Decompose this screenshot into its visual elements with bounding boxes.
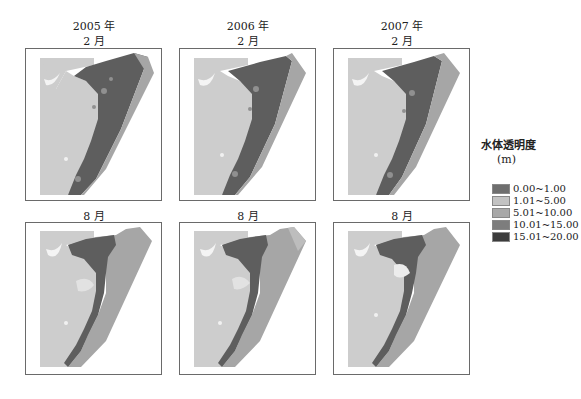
water-transparency-map xyxy=(180,223,317,376)
legend-label: 0.00~1.00 xyxy=(513,183,566,194)
legend-item: 0.00~1.00 xyxy=(492,183,566,194)
map-panel-2007-aug xyxy=(333,222,470,375)
month-label-2005-aug: 8 月 xyxy=(24,207,164,223)
legend-label: 15.01~20.00 xyxy=(513,231,579,242)
legend-swatch xyxy=(492,220,510,230)
map-panel-2006-aug xyxy=(179,222,316,375)
legend-swatch xyxy=(492,196,510,206)
legend-item: 5.01~10.00 xyxy=(492,207,572,218)
month-label-2007-feb: 2 月 xyxy=(332,32,472,48)
legend-item: 10.01~15.00 xyxy=(492,219,579,230)
water-transparency-map xyxy=(334,223,471,376)
legend-label: 5.01~10.00 xyxy=(513,207,572,218)
month-label-2006-aug: 8 月 xyxy=(178,207,318,223)
year-label-2007: 2007 年 xyxy=(332,17,472,33)
legend-swatch xyxy=(492,208,510,218)
water-transparency-map xyxy=(26,223,163,376)
map-panel-2007-feb xyxy=(333,48,470,201)
month-label-2007-aug: 8 月 xyxy=(332,207,472,223)
map-panel-2005-aug xyxy=(25,222,162,375)
month-label-2005-feb: 2 月 xyxy=(24,32,164,48)
year-label-2005: 2005 年 xyxy=(24,17,164,33)
water-transparency-map xyxy=(180,49,317,202)
legend-item: 15.01~20.00 xyxy=(492,231,579,242)
legend-unit: (m) xyxy=(497,153,516,166)
map-panel-2005-feb xyxy=(25,48,162,201)
map-panel-2006-feb xyxy=(179,48,316,201)
legend-label: 1.01~5.00 xyxy=(513,195,566,206)
legend-title: 水体透明度 xyxy=(481,136,551,152)
water-transparency-map xyxy=(334,49,471,202)
legend-item: 1.01~5.00 xyxy=(492,195,566,206)
month-label-2006-feb: 2 月 xyxy=(178,32,318,48)
legend-swatch xyxy=(492,184,510,194)
legend-label: 10.01~15.00 xyxy=(513,219,579,230)
legend-swatch xyxy=(492,232,510,242)
water-transparency-map xyxy=(26,49,163,202)
year-label-2006: 2006 年 xyxy=(178,17,318,33)
